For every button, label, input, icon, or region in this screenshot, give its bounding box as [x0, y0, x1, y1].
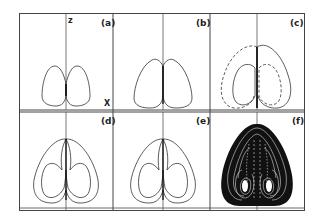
panel-label-a: (a) [101, 18, 115, 28]
panel-label-f: (f) [292, 116, 304, 126]
panel-e-orbit [131, 139, 196, 203]
panel-label-b: (b) [196, 18, 211, 28]
axis-label-z: z [68, 16, 73, 25]
panel-b-orbit [134, 59, 192, 108]
panel-d-orbit [34, 139, 99, 203]
panel-label-d: (d) [101, 116, 116, 126]
panel-c-orbits [221, 45, 291, 108]
panel-f-attractor [221, 124, 293, 206]
panel-label-c: (c) [290, 18, 304, 28]
axis-label-x: X [104, 99, 110, 108]
panel-label-e: (e) [196, 116, 210, 126]
figure-grid: (a) (b) (c) (d) (e) (f) z X [0, 0, 320, 224]
